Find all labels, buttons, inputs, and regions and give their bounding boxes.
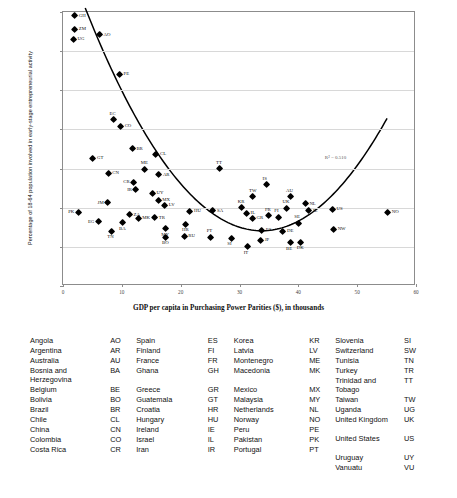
legend-country-code: NL — [309, 405, 335, 414]
data-point-label: NW — [338, 226, 346, 231]
legend-country-name: France — [136, 356, 208, 365]
legend-country-code: KR — [309, 336, 335, 345]
legend-country-name: China — [30, 425, 110, 434]
data-point-label: PK — [68, 209, 74, 214]
legend-country-code: VU — [404, 463, 430, 472]
legend-country-name: Brazil — [30, 405, 110, 414]
legend-row: BelgiumBE — [30, 385, 136, 395]
legend-country-code: BE — [110, 385, 136, 394]
legend-country-name: Israel — [136, 435, 208, 444]
data-point-label: FR — [265, 207, 271, 212]
legend-row: KoreaKR — [234, 336, 335, 346]
legend-row: GuatemalaGT — [136, 395, 234, 405]
legend-row: IrelandIE — [136, 425, 234, 435]
legend-country-code: HR — [208, 405, 234, 414]
legend-row: MontenegroME — [234, 356, 335, 366]
legend-country-code: MX — [309, 385, 335, 394]
legend-country-code: PE — [309, 425, 335, 434]
x-tick-mark — [181, 284, 182, 287]
gridline — [63, 51, 414, 52]
legend-country-name: Belgium — [30, 385, 110, 394]
legend-country-code: SI — [404, 336, 430, 345]
data-point-label: UK — [283, 199, 290, 204]
legend-row: GhanaGH — [136, 366, 234, 385]
legend-country-code: PK — [309, 435, 335, 444]
gridline — [63, 129, 414, 130]
legend-country-name: Greece — [136, 385, 208, 394]
legend-country-code: ME — [309, 356, 335, 365]
legend-country-name: Costa Rica — [30, 445, 110, 454]
data-point-label: TT — [216, 160, 222, 165]
legend-country-name: Korea — [234, 336, 309, 345]
legend-country-name: Ireland — [136, 425, 208, 434]
data-point-label: RU — [188, 233, 195, 238]
legend-row: Bosnia and HerzegovinaBA — [30, 366, 136, 385]
legend-country-code: IE — [208, 425, 234, 434]
legend-country-name: Guatemala — [136, 395, 208, 404]
data-point-label: PE — [123, 71, 129, 76]
data-point-label: GT — [97, 155, 103, 160]
legend-row: United KingdomUK — [335, 415, 430, 434]
x-tick-label: 20 — [171, 289, 191, 295]
legend-row: NorwayNO — [234, 415, 335, 425]
legend-country-name: Finland — [136, 346, 208, 355]
legend-country-code: NO — [309, 415, 335, 424]
legend-country-code: CN — [110, 425, 136, 434]
data-point-label: HR — [182, 227, 189, 232]
data-point-label: DK — [297, 245, 304, 250]
legend-row: SwitzerlandSW — [335, 346, 430, 356]
legend-country-name: Taiwan — [335, 395, 404, 404]
y-tick-mark — [60, 247, 63, 248]
data-point-label: JM — [98, 200, 104, 205]
legend-column: SloveniaSISwitzerlandSWTunisiaTNTurkeyTR… — [335, 336, 430, 473]
data-point-label: JP — [265, 237, 270, 242]
x-tick-mark — [298, 284, 299, 287]
data-point-label: BR — [136, 146, 142, 151]
legend-country-code: TT — [404, 376, 430, 385]
legend-country-code: BO — [110, 395, 136, 404]
legend-country-name: Spain — [136, 336, 208, 345]
y-tick-mark — [60, 12, 63, 13]
legend-country-name: Vanuatu — [335, 463, 404, 472]
data-point-label: SE — [294, 214, 300, 219]
data-point-label: BO — [162, 240, 169, 245]
data-point-label: UY — [156, 190, 163, 195]
legend-country-name: Croatia — [136, 405, 208, 414]
data-point-label: NL — [309, 201, 315, 206]
legend-country-code: US — [404, 434, 430, 443]
legend-country-code: AR — [110, 346, 136, 355]
data-point-label: GH — [79, 13, 86, 18]
legend-country-name: Argentina — [30, 346, 110, 355]
scatter-plot-page: Percentage of 18-64 population involved … — [0, 0, 457, 498]
data-point-label: AO — [103, 32, 110, 37]
legend-country-code: CL — [110, 415, 136, 424]
y-tick-mark — [60, 90, 63, 91]
legend-row: AustraliaAU — [30, 356, 136, 366]
legend-country-name: United States — [335, 434, 404, 443]
data-point-label: CO — [125, 123, 132, 128]
data-point-label: IE — [313, 208, 318, 213]
data-point-label: ME — [141, 160, 148, 165]
x-tick-label: 10 — [112, 289, 132, 295]
legend-country-code: SW — [404, 346, 430, 355]
data-point-label: KR — [238, 199, 245, 204]
legend-country-name: Netherlands — [234, 405, 309, 414]
legend-row: AngolaAO — [30, 336, 136, 346]
legend-country-name: Angola — [30, 336, 110, 345]
legend-country-name: Latvia — [234, 346, 309, 355]
legend-column: AngolaAOArgentinaARAustraliaAUBosnia and… — [30, 336, 136, 473]
y-tick-mark — [60, 51, 63, 52]
trendline — [63, 12, 414, 284]
legend-country-name: Norway — [234, 415, 309, 424]
legend-country-code: MY — [309, 395, 335, 404]
legend-column: SpainESFinlandFIFranceFRGhanaGHGreeceGRG… — [136, 336, 234, 473]
legend-row: Trinidad and TobagoTT — [335, 376, 430, 395]
legend-country-name: Macedonia — [234, 366, 309, 375]
legend-country-name: Trinidad and Tobago — [335, 376, 404, 395]
legend-row: MalaysiaMY — [234, 395, 335, 405]
legend-country-name: Turkey — [335, 366, 404, 375]
x-tick-mark — [63, 284, 64, 287]
legend-country-code: GT — [208, 395, 234, 404]
y-axis-title: Percentage of 18-64 population involved … — [27, 23, 33, 273]
legend-row: FinlandFI — [136, 346, 234, 356]
